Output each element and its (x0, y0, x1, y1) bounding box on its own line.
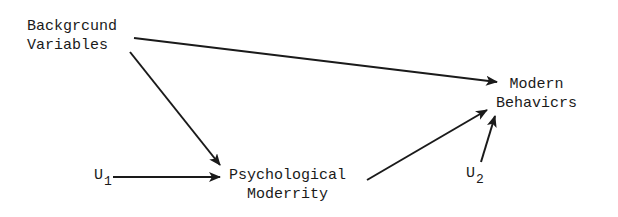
node-background-variables: Backgrcund Variables (27, 17, 117, 55)
node-label-line2: Variables (27, 36, 117, 55)
edge-background-to-psych (130, 52, 220, 165)
node-u1: U1 (94, 166, 112, 185)
path-diagram: Backgrcund Variables Modern Behavicrs Ps… (0, 0, 618, 217)
edge-background-to-behaviors (134, 38, 497, 82)
u1-subscript: 1 (104, 174, 112, 189)
u2-subscript: 2 (476, 172, 484, 187)
node-label-line2: Behavicrs (496, 94, 577, 113)
u2-base: U (466, 165, 475, 182)
node-label-line2: Moderrity (229, 185, 346, 204)
edge-u2-to-behaviors (481, 116, 495, 162)
node-psychological-modernity: Psychological Moderrity (229, 166, 346, 204)
node-label-line1: Modern (496, 75, 577, 94)
node-u2: U2 (466, 164, 484, 183)
node-label-line1: Psychological (229, 166, 346, 185)
node-modern-behaviors: Modern Behavicrs (496, 75, 577, 113)
u1-base: U (94, 167, 103, 184)
node-label-line1: Backgrcund (27, 17, 117, 36)
